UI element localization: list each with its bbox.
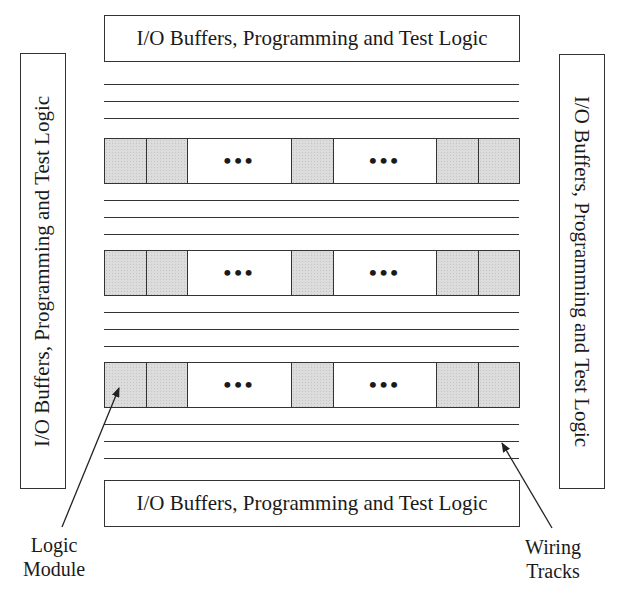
wiring-tracks-label: Wiring Tracks [513,535,593,583]
wiring-tracks-label-line2: Tracks [513,559,593,583]
logic-module-label: Logic Module [14,533,94,581]
wiring-tracks-label-line1: Wiring [513,535,593,559]
logic-module-label-line2: Module [14,557,94,581]
logic-module-label-line1: Logic [14,533,94,557]
logic-module-arrow [62,388,119,527]
wiring-tracks-arrow [502,443,552,528]
callout-arrows [0,0,626,599]
